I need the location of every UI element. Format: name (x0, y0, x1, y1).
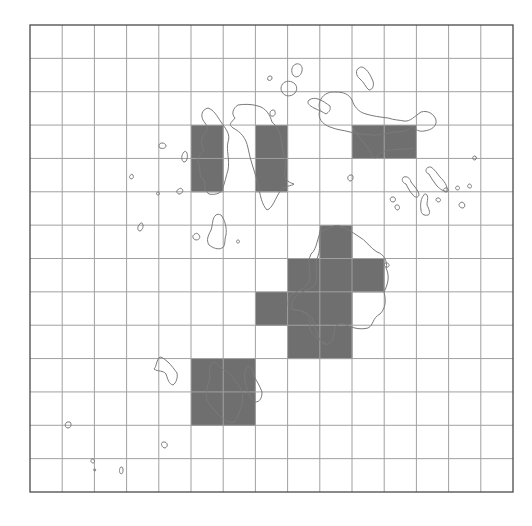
island-south-small-2 (162, 442, 168, 448)
shaded-cell (255, 125, 288, 159)
shaded-cells-layer (191, 125, 417, 426)
shaded-cell (352, 259, 385, 293)
island-north-small-2 (281, 81, 297, 96)
island-west-small-1 (159, 143, 166, 148)
shaded-cell (320, 292, 353, 326)
island-east-small-e (456, 186, 460, 190)
island-west-small-5 (177, 188, 183, 194)
island-south-small-5 (120, 467, 124, 474)
grid-lines-layer (30, 25, 513, 492)
shaded-cell (320, 259, 353, 293)
shaded-cell (288, 325, 321, 359)
island-west-small-8 (237, 240, 240, 243)
island-east-small-g (468, 184, 472, 188)
grid-map (0, 0, 532, 526)
island-west-small-6 (138, 223, 143, 231)
island-east-small-a (390, 197, 395, 202)
shaded-cell (191, 392, 224, 426)
shaded-cell (223, 359, 256, 393)
island-north-small-1 (292, 64, 302, 77)
island-north-small-4 (270, 110, 275, 116)
island-east-small-f (459, 202, 465, 208)
island-north-small-3 (268, 76, 272, 80)
island-east-3 (421, 194, 430, 215)
island-west-small-4 (157, 192, 160, 195)
shaded-cell (384, 125, 417, 159)
island-west-small-3 (130, 174, 134, 179)
island-north-elongated (356, 67, 373, 90)
map-canvas (0, 0, 532, 526)
shaded-cell (255, 158, 288, 192)
shaded-cell (320, 325, 353, 359)
island-southwest-small (154, 357, 177, 385)
island-east-small-b (395, 205, 400, 210)
island-west-small-7 (193, 233, 200, 240)
island-east-small-c (436, 198, 441, 202)
shaded-cell (255, 292, 288, 326)
island-east-2 (426, 167, 447, 191)
island-west-small-2 (182, 151, 188, 162)
shaded-cell (191, 158, 224, 192)
shaded-cell (288, 292, 321, 326)
